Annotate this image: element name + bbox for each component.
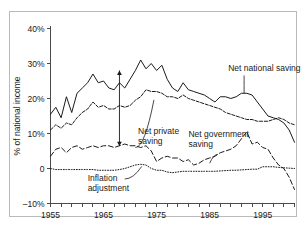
annotation-inflation-adjustment: Inflationadjustment [88, 173, 130, 193]
x-tick-label-1: 1965 [94, 210, 113, 220]
x-tick-label-0: 1955 [41, 210, 60, 220]
x-axis: 19551965197519851995 [41, 204, 294, 220]
span-arrow-head-top [117, 71, 122, 75]
saving-rates-line-chart: 40%30%20%10%0–10% 19551965197519851995 N… [0, 0, 308, 240]
y-tick-label-4: 0 [40, 164, 45, 174]
x-tick-label-3: 1985 [200, 210, 219, 220]
annotation-net-government-saving: Net governmentsaving [188, 129, 249, 149]
y-tick-label-0: 40% [27, 24, 44, 34]
leader-inflation-adjustment [125, 166, 142, 179]
x-tick-label-4: 1995 [253, 210, 272, 220]
y-axis-title: % of national income [12, 76, 22, 155]
annotation-net-national-saving: Net national saving [228, 63, 301, 73]
span-arrow-head-bottom [117, 142, 122, 146]
series-net-private-saving [51, 90, 295, 130]
chart-annotations: Net national savingNet privatesavingNet … [88, 63, 301, 194]
y-tick-label-1: 30% [27, 59, 44, 69]
axis-titles: % of national income [12, 76, 22, 155]
y-axis: 40%30%20%10%0–10% [23, 24, 51, 209]
y-tick-label-3: 10% [27, 129, 44, 139]
y-tick-label-5: –10% [23, 199, 45, 209]
series-inflation-adjustment [51, 164, 295, 172]
x-tick-label-2: 1975 [147, 210, 166, 220]
y-tick-label-2: 20% [27, 94, 44, 104]
annotation-net-private-saving: Net privatesaving [138, 126, 179, 146]
